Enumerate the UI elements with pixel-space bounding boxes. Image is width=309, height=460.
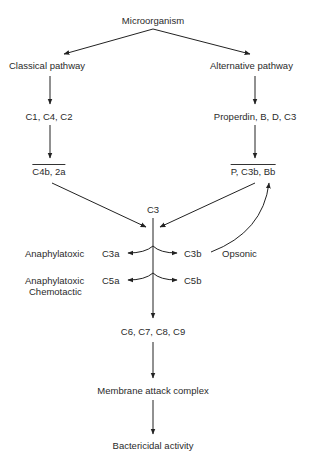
node-c3a: C3a [102, 248, 119, 259]
annotation-c5a-chemotactic: Chemotactic [29, 286, 82, 297]
node-classical-pathway: Classical pathway [9, 60, 85, 71]
node-c5a: C5a [102, 275, 119, 286]
annotation-c5a-anaphylatoxic: Anaphylatoxic [25, 275, 84, 286]
node-bactericidal-activity: Bactericidal activity [113, 440, 194, 451]
node-properdin-b-d-c3: Properdin, B, D, C3 [214, 111, 296, 122]
node-c5b: C5b [184, 275, 201, 286]
node-c3: C3 [147, 204, 159, 215]
annotation-c3b-opsonic: Opsonic [222, 248, 257, 259]
node-c6-c7-c8-c9: C6, C7, C8, C9 [121, 326, 185, 337]
node-p-c3b-bb: P, C3b, Bb [231, 164, 276, 177]
node-microorganism: Microorganism [122, 15, 184, 26]
node-membrane-attack-complex: Membrane attack complex [97, 385, 208, 396]
node-c1-c4-c2: C1, C4, C2 [26, 111, 73, 122]
node-alternative-pathway: Alternative pathway [210, 60, 293, 71]
node-c4b-2a: C4b, 2a [32, 164, 65, 177]
node-c3b: C3b [184, 248, 201, 259]
annotation-c3a-anaphylatoxic: Anaphylatoxic [25, 248, 84, 259]
